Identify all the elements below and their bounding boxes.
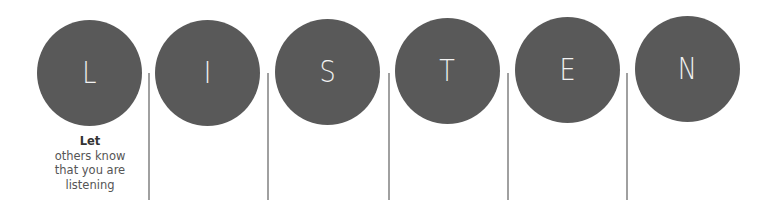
letter-label: N xyxy=(678,54,697,84)
caption-line-3: listening xyxy=(38,178,142,193)
caption-line-2: that you are xyxy=(38,163,142,178)
letter-label: S xyxy=(319,57,335,87)
letter-circle-l: L xyxy=(37,20,142,126)
letter-circle-i: I xyxy=(155,20,260,126)
divider-line xyxy=(507,73,509,200)
divider-line xyxy=(148,73,150,200)
caption-line-1: others know xyxy=(38,149,142,164)
letter-circle-n: N xyxy=(635,16,740,122)
letter-circle-t: T xyxy=(395,18,500,124)
letter-circle-e: E xyxy=(515,17,620,123)
letter-label: I xyxy=(204,58,212,88)
letter-label: T xyxy=(440,56,456,86)
letter-circle-s: S xyxy=(275,19,380,125)
divider-line xyxy=(267,73,269,200)
caption-heading: Let xyxy=(38,134,142,149)
caption-l: Let others know that you are listening xyxy=(38,134,142,192)
divider-line xyxy=(388,73,390,200)
divider-line xyxy=(626,73,628,200)
letter-label: E xyxy=(559,55,575,85)
letter-label: L xyxy=(82,58,96,88)
